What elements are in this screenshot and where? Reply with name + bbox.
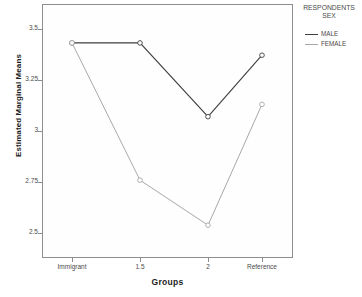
legend-item-female[interactable]: FEMALE	[305, 40, 361, 49]
x-tick-label: Immigrant	[58, 264, 87, 271]
y-tick-label: 2.5	[29, 229, 38, 236]
x-tick-label: 1.5	[135, 264, 144, 271]
x-tick-mark	[72, 258, 73, 262]
legend-title: RESPONDENTS SEX	[297, 4, 361, 21]
y-tick-label: 3.25	[25, 76, 38, 83]
y-tick-label: 3.5	[29, 25, 38, 32]
legend: RESPONDENTS SEX MALEFEMALE	[297, 4, 361, 50]
data-point-marker	[138, 178, 143, 183]
data-point-marker	[260, 102, 265, 107]
x-tick-mark	[208, 258, 209, 262]
legend-label: MALE	[321, 31, 338, 37]
estimated-marginal-means-chart: 3.53.2532.752.5 Estimated Marginal Means…	[0, 0, 362, 297]
y-tick-mark	[38, 80, 42, 81]
legend-label: FEMALE	[321, 41, 346, 47]
x-axis-title: Groups	[42, 277, 293, 287]
legend-line-swatch	[305, 34, 318, 36]
series-line-male	[72, 43, 262, 117]
x-tick-label: Reference	[247, 264, 277, 271]
data-point-marker	[138, 41, 143, 46]
legend-line-swatch	[305, 44, 318, 46]
series-line-female	[72, 43, 262, 225]
data-point-marker	[260, 53, 265, 58]
data-point-marker	[206, 114, 211, 119]
legend-items: MALEFEMALE	[297, 30, 361, 49]
x-tick-mark	[262, 258, 263, 262]
x-tick-label: 2	[206, 264, 210, 271]
x-tick-mark	[140, 258, 141, 262]
chart-series-canvas	[42, 4, 293, 258]
y-tick-mark	[38, 182, 42, 183]
y-tick-mark	[38, 29, 42, 30]
y-tick-mark	[38, 131, 42, 132]
data-point-marker	[206, 223, 211, 228]
legend-item-male[interactable]: MALE	[305, 30, 361, 39]
y-axis-title: Estimated Marginal Means	[14, 26, 23, 186]
data-point-marker	[70, 41, 75, 46]
y-tick-mark	[38, 233, 42, 234]
y-tick-label: 2.75	[25, 178, 38, 185]
